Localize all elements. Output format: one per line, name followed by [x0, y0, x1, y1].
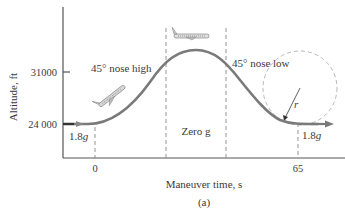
airplane-nose-high-icon — [92, 80, 128, 113]
nose-high-label: 45° nose high — [91, 62, 152, 74]
radius-label: r — [294, 98, 299, 110]
entry-arrowhead — [76, 121, 84, 127]
x-axis-label: Maneuver time, s — [166, 178, 243, 190]
start-g-label: 1.8g — [69, 130, 89, 142]
parabolic-flight-diagram: Altitude, ft 31000 24 000 0 65 Maneuver … — [0, 0, 345, 213]
y-axis-label: Altitude, ft — [7, 73, 19, 121]
x-tick-label-0: 0 — [92, 163, 97, 174]
exit-arrowhead — [325, 121, 334, 128]
figure-caption: (a) — [198, 196, 211, 209]
y-tick-label-24000: 24 000 — [28, 119, 57, 130]
end-g-label: 1.8g — [302, 129, 322, 141]
y-tick-label-31000: 31000 — [31, 67, 57, 78]
zero-g-label: Zero g — [181, 125, 211, 137]
x-tick-label-65: 65 — [293, 163, 304, 174]
airplane-level-icon — [172, 27, 209, 40]
nose-low-label: 45° nose low — [232, 57, 290, 69]
